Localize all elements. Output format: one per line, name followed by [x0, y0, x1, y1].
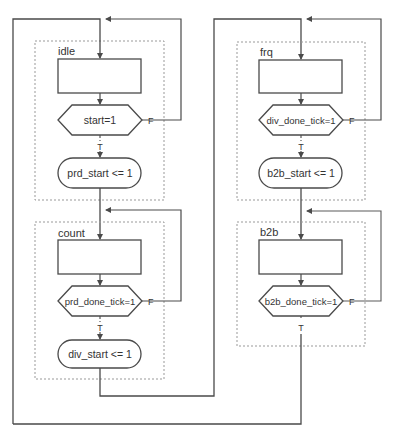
false-label: F: [148, 297, 154, 307]
state-frq-box: [259, 60, 342, 93]
decision-div-done-tick-label: div_done_tick=1: [267, 115, 336, 126]
state-idle-name: idle: [58, 45, 75, 57]
state-frq-name: frq: [260, 46, 273, 58]
action-div-start-label: div_start <= 1: [68, 348, 132, 360]
true-label: T: [97, 142, 103, 152]
true-label: T: [298, 323, 304, 333]
state-count-name: count: [58, 227, 85, 239]
state-idle-box: [58, 59, 141, 93]
false-label: F: [148, 116, 154, 126]
decision-prd-done-tick-label: prd_done_tick=1: [65, 296, 136, 307]
decision-start-label: start=1: [84, 114, 117, 126]
state-b2b-box: [259, 240, 342, 274]
true-label: T: [298, 142, 304, 152]
state-b2b-name: b2b: [260, 226, 278, 238]
asm-chart: idle start=1 F T prd_start <= 1 count pr…: [0, 0, 393, 440]
false-label: F: [349, 297, 355, 307]
state-frq: frq div_done_tick=1 F T b2b_start <= 1: [237, 42, 365, 200]
true-label: T: [97, 323, 103, 333]
action-prd-start-label: prd_start <= 1: [67, 167, 133, 179]
state-b2b: b2b b2b_done_tick=1 F T: [237, 222, 365, 346]
action-b2b-start-label: b2b_start <= 1: [267, 167, 335, 179]
state-count-box: [58, 240, 141, 274]
decision-b2b-done-tick-label: b2b_done_tick=1: [265, 296, 338, 307]
false-label: F: [349, 116, 355, 126]
